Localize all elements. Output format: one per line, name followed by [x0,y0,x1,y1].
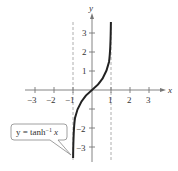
function-label-callout: y = tanh−1x [11,124,71,155]
y-axis-label: y [88,3,93,13]
function-label-superscript: −1 [46,127,52,133]
x-tick-label: 1 [108,95,113,105]
function-label-var: x [53,127,58,137]
x-tick-label: 3 [146,95,151,105]
x-tick-label: −3 [27,95,37,105]
y-tick-label: −2 [76,124,86,134]
x-tick-label: −2 [46,95,56,105]
function-label-text: y = tanh [16,127,46,137]
x-axis-label: x [167,85,172,95]
y-tick-label: 2 [82,47,87,57]
y-tick-label: 1 [82,66,87,76]
y-axis-arrow-icon [90,13,94,19]
x-tick-label: −1 [65,95,75,105]
tanh-inverse-chart: −3 −2 −1 1 2 3 x 3 2 1 −2 −3 y y = tanh−… [0,0,178,171]
y-tick-label: 3 [82,28,87,38]
x-axis-arrow-icon [160,88,166,92]
x-tick-label: 2 [127,95,132,105]
y-tick-label: −3 [76,143,86,153]
